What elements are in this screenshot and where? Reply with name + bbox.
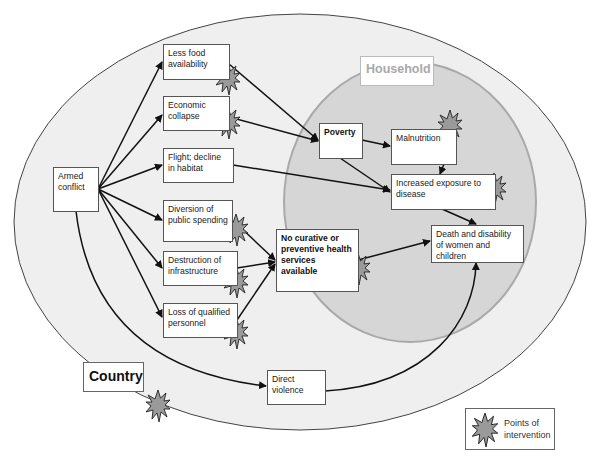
node-economic-collapse: Economic collapse	[163, 96, 230, 131]
legend: Points of intervention	[465, 408, 555, 450]
node-less-food: Less food availability	[163, 44, 230, 80]
household-label: Household	[360, 56, 434, 86]
legend-label: Points of intervention	[504, 417, 554, 441]
node-no-health-services: No curative or preventive health service…	[276, 229, 359, 292]
node-death-disability: Death and disability of women and childr…	[431, 225, 524, 263]
node-destruction: Destruction of infrastructure	[163, 251, 238, 286]
node-flight: Flight; decline in habitat	[163, 148, 234, 183]
node-poverty: Poverty	[319, 123, 363, 159]
node-loss-personnel: Loss of qualified personnel	[163, 303, 238, 338]
country-label: Country	[83, 362, 144, 392]
diagram-canvas: Household Armed conflict Less food avail…	[0, 0, 597, 462]
node-armed-conflict: Armed conflict	[53, 167, 99, 212]
node-direct-violence: Direct violence	[267, 370, 326, 405]
node-diversion: Diversion of public spending	[163, 200, 233, 242]
node-increased-exposure: Increased exposure to disease	[391, 174, 496, 210]
intervention-star-icon	[472, 413, 498, 447]
node-malnutrition: Malnutrition	[391, 129, 457, 165]
